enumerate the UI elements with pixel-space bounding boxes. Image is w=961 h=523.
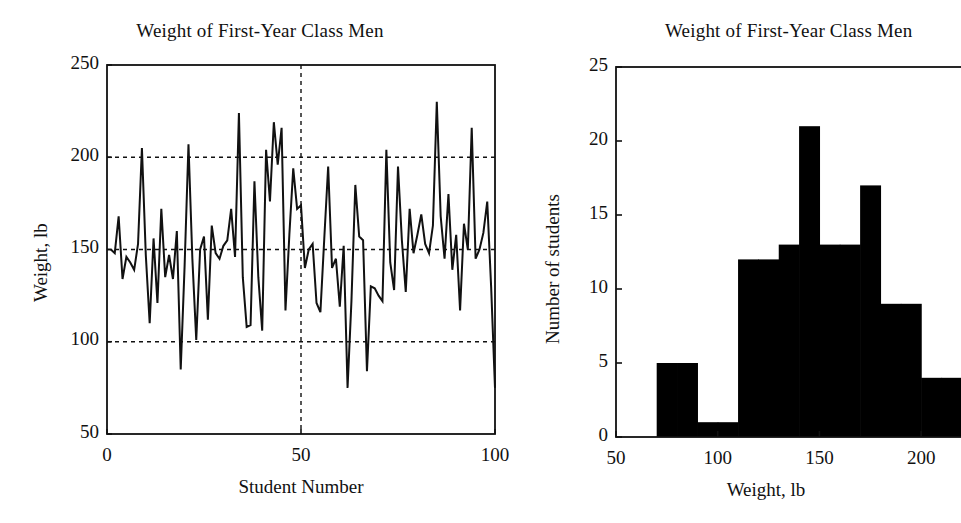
line-ytick-150: 150 [49,236,99,258]
histogram-bar [819,245,840,437]
histogram-bar [677,363,698,437]
histogram-bar [758,259,779,437]
line-ytick-100: 100 [49,328,99,350]
histogram-bar [738,259,759,437]
hist-ytick-0: 0 [556,424,608,446]
line-ytick-250: 250 [49,52,99,74]
line-ytick-50: 50 [49,421,99,443]
histogram-bar [657,363,678,437]
hist-xtick-200: 200 [881,447,961,469]
histogram-panel: Weight of First-Year Class Men 25 20 15 … [520,0,957,523]
hist-ytick-5: 5 [556,350,608,372]
line-chart-xaxis-label: Student Number [107,476,495,498]
histogram-yaxis-label: Number of students [542,194,564,344]
hist-xtick-150: 150 [779,447,859,469]
line-chart-yaxis-label: Weight, lb [30,223,52,302]
histogram-bar [921,378,942,437]
hist-xtick-100: 100 [678,447,758,469]
hist-xtick-50: 50 [576,447,656,469]
histogram-xaxis-label: Weight, lb [616,479,916,501]
histogram-bar [718,422,739,437]
histogram-bar [941,378,961,437]
line-chart-panel: Weight of First-Year Class Men 250 200 1… [0,0,520,523]
line-xtick-50: 50 [261,444,341,466]
line-xtick-0: 0 [67,444,147,466]
hist-ytick-20: 20 [556,128,608,150]
histogram-bar [697,422,718,437]
histogram-bar [799,126,820,437]
hist-ytick-25: 25 [556,54,608,76]
histogram-bar [779,245,800,437]
line-ytick-200: 200 [49,144,99,166]
histogram-bar [840,245,861,437]
line-series-path [111,102,495,388]
histogram-bar [860,185,881,437]
histogram-bar [901,304,922,437]
histogram-bar [880,304,901,437]
